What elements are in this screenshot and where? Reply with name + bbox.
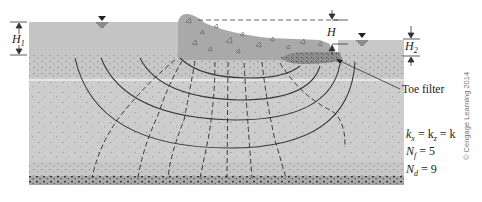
h1-label: H1: [12, 33, 25, 48]
impervious-layer: [29, 176, 404, 185]
param-flow-channels: Nf = 5: [406, 145, 456, 162]
param-potential-drops: Nd = 9: [406, 163, 456, 180]
downstream-water: [338, 40, 404, 56]
toe-filter-label: Toe filter: [402, 84, 444, 96]
flow-net-parameters: kx = kz = k Nf = 5 Nd = 9: [406, 128, 456, 180]
param-permeability: kx = kz = k: [406, 128, 456, 145]
h-label: H: [327, 26, 336, 38]
flow-net-diagram: H1 H H2 Toe filter kx = kz = k Nf = 5 Nd…: [0, 0, 482, 202]
copyright-notice: © Cengage Learning 2014: [462, 72, 471, 160]
h2-label: H2: [405, 40, 418, 55]
